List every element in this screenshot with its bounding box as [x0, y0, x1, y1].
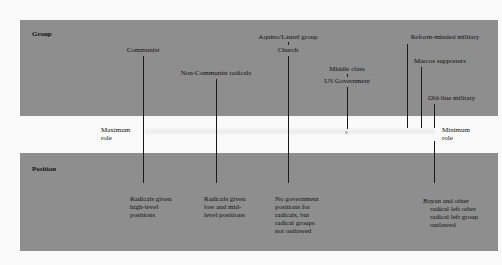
maximum-role-label: Maximum role — [101, 126, 130, 142]
line-marcos-supporters — [421, 67, 422, 128]
group-panel-title: Group — [32, 30, 52, 38]
group-label-middle-class: Middle class — [329, 65, 365, 73]
position-label-outlawed: Bayan and other radical left other radic… — [423, 197, 478, 229]
role-axis — [145, 128, 435, 135]
connector-tick — [288, 42, 289, 45]
position-panel-title: Position — [32, 165, 56, 173]
axis-marker-dot — [345, 131, 348, 134]
group-label-non-communist-radicals: Non-Communist radicals — [181, 69, 252, 77]
group-label-aquino-laurel: Aquino/Laurel group — [258, 33, 317, 41]
group-label-old-line-military: Old-line military — [428, 94, 475, 102]
line-reform-military — [407, 44, 408, 128]
line-old-line-military-lower — [434, 141, 435, 183]
line-middle-class — [347, 87, 348, 129]
line-communist — [143, 56, 144, 183]
position-label-no-positions: No government positions for radicals, bu… — [275, 195, 319, 235]
position-label-low-mid-level: Radicals given low and mid- level positi… — [204, 195, 245, 219]
group-label-communist: Communist — [127, 46, 160, 54]
line-old-line-military — [434, 104, 435, 128]
line-aquino-church — [288, 56, 289, 183]
group-label-reform-minded-military: Reform-minded military — [411, 33, 480, 41]
position-label-high-level: Radicals given high-level positions — [130, 195, 171, 219]
minimum-role-label: Minimum role — [442, 126, 470, 142]
line-non-communist-radicals — [216, 79, 217, 183]
group-label-church: Church — [278, 46, 299, 54]
group-label-marcos-supporters: Marcos supporters — [414, 57, 466, 65]
group-label-us-government: US Government — [324, 77, 370, 85]
